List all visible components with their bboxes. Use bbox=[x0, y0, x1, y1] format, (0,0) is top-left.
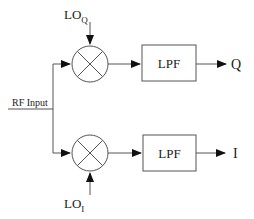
i-output-label: I bbox=[233, 146, 238, 161]
mixer-q bbox=[72, 46, 108, 82]
lo-q-label: LOQ bbox=[64, 7, 88, 25]
lpf-i-label: LPF bbox=[158, 146, 180, 161]
iq-demodulator-diagram: RF Input LOQ LPF Q LOI LPF I bbox=[0, 0, 254, 219]
mixer-i bbox=[72, 135, 108, 171]
rf-input-split-line bbox=[8, 64, 70, 153]
rf-input-label: RF Input bbox=[12, 97, 48, 108]
lo-i-label: LOI bbox=[64, 196, 84, 214]
lpf-q-label: LPF bbox=[158, 56, 180, 71]
q-output-label: Q bbox=[231, 57, 241, 72]
